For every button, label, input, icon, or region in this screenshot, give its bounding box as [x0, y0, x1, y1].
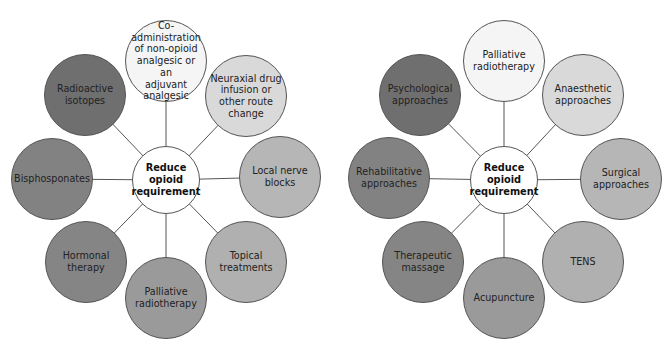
node-label: Rehabilitative approaches [356, 166, 422, 189]
node-label: Reduce opioid requirement [132, 162, 201, 198]
node-label: Local nerve blocks [252, 165, 307, 188]
satellite-node: Neuraxial drug infusion or other route c… [205, 55, 287, 137]
center-node: Reduce opioid requirement [132, 146, 200, 214]
node-label: Palliative radiotherapy [473, 49, 535, 72]
center-node: Reduce opioid requirement [470, 146, 538, 214]
node-label: Hormonal therapy [63, 250, 110, 273]
node-label: Palliative radiotherapy [135, 286, 197, 309]
node-label: Radioactive isotopes [57, 83, 113, 106]
node-label: Surgical approaches [593, 167, 649, 190]
satellite-node: Acupuncture [463, 257, 545, 339]
satellite-node: TENS [542, 221, 624, 303]
satellite-node: Therapeutic massage [382, 221, 464, 303]
node-label: Psychological approaches [388, 83, 453, 106]
node-label: TENS [570, 256, 595, 268]
node-label: Bisphosponates [14, 173, 90, 185]
satellite-node: Local nerve blocks [239, 136, 321, 218]
node-label: Co-administration of non-opioid analgesi… [130, 20, 202, 102]
satellite-node: Surgical approaches [580, 138, 662, 220]
node-label: Therapeutic massage [394, 250, 451, 273]
node-label: Reduce opioid requirement [470, 162, 539, 198]
satellite-node: Hormonal therapy [45, 221, 127, 303]
satellite-node: Topical treatments [205, 221, 287, 303]
satellite-node: Bisphosponates [11, 138, 93, 220]
node-label: Acupuncture [474, 292, 535, 304]
node-label: Neuraxial drug infusion or other route c… [210, 73, 281, 120]
satellite-node: Psychological approaches [379, 54, 461, 136]
satellite-node: Anaesthetic approaches [542, 54, 624, 136]
satellite-node: Co-administration of non-opioid analgesi… [125, 20, 207, 102]
satellite-node: Palliative radiotherapy [463, 20, 545, 102]
satellite-node: Palliative radiotherapy [125, 257, 207, 339]
satellite-node: Radioactive isotopes [44, 54, 126, 136]
node-label: Topical treatments [219, 250, 272, 273]
satellite-node: Rehabilitative approaches [348, 137, 430, 219]
node-label: Anaesthetic approaches [555, 83, 612, 106]
